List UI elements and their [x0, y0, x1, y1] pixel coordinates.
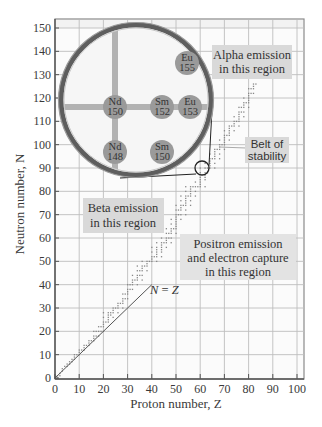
nuclide-nd-148: Nd 148 — [103, 140, 127, 164]
svg-text:Beta emission: Beta emission — [88, 201, 159, 215]
svg-text:80: 80 — [39, 184, 51, 198]
nuclide-eu-155: Eu 155 — [175, 51, 199, 75]
svg-text:148: 148 — [107, 151, 123, 162]
beta-region-label: Beta emission in this region — [83, 198, 164, 233]
svg-text:10: 10 — [39, 348, 51, 362]
svg-text:70: 70 — [39, 208, 51, 222]
svg-text:110: 110 — [33, 114, 51, 128]
svg-text:in this region: in this region — [205, 265, 272, 279]
svg-text:20: 20 — [97, 382, 109, 396]
svg-text:90: 90 — [267, 382, 279, 396]
svg-text:50: 50 — [170, 382, 182, 396]
svg-text:150: 150 — [107, 106, 123, 117]
svg-text:30: 30 — [39, 301, 51, 315]
svg-text:130: 130 — [33, 68, 51, 82]
x-axis-title: Proton number, Z — [130, 396, 222, 411]
svg-text:and electron capture: and electron capture — [187, 251, 289, 265]
nuclide-nd-150: Nd 150 — [103, 95, 127, 119]
svg-text:Positron emission: Positron emission — [193, 237, 283, 251]
svg-text:20: 20 — [39, 324, 51, 338]
svg-text:80: 80 — [243, 382, 255, 396]
svg-text:10: 10 — [73, 382, 85, 396]
svg-text:100: 100 — [288, 382, 306, 396]
svg-text:152: 152 — [154, 106, 170, 117]
svg-text:100: 100 — [33, 138, 51, 152]
y-axis-title: Neutron number, N — [12, 153, 27, 255]
nuclide-eu-153: Eu 153 — [178, 95, 202, 119]
svg-text:in this region: in this region — [219, 62, 286, 76]
svg-text:0: 0 — [52, 382, 58, 396]
svg-text:30: 30 — [122, 382, 134, 396]
svg-text:150: 150 — [154, 151, 170, 162]
svg-text:153: 153 — [182, 106, 198, 117]
svg-text:60: 60 — [194, 382, 206, 396]
svg-text:120: 120 — [33, 91, 51, 105]
svg-text:140: 140 — [33, 44, 51, 58]
stability-chart: 0102030405060708090100010203040506070809… — [0, 0, 322, 427]
svg-text:150: 150 — [33, 21, 51, 35]
svg-text:Belt of: Belt of — [251, 138, 284, 150]
svg-text:stability: stability — [248, 150, 287, 162]
svg-text:Alpha emission: Alpha emission — [213, 48, 292, 62]
alpha-region-label: Alpha emission in this region — [212, 45, 292, 79]
svg-text:70: 70 — [218, 382, 230, 396]
svg-text:50: 50 — [39, 254, 51, 268]
svg-text:90: 90 — [39, 161, 51, 175]
svg-text:0: 0 — [45, 371, 51, 385]
n-equals-z-label: N = Z — [149, 283, 180, 297]
svg-text:in this region: in this region — [90, 216, 157, 230]
svg-text:40: 40 — [146, 382, 158, 396]
positron-region-label: Positron emission and electron capture i… — [180, 234, 296, 280]
svg-text:40: 40 — [39, 278, 51, 292]
nuclide-sm-150: Sm 150 — [150, 140, 174, 164]
svg-text:155: 155 — [179, 62, 195, 73]
svg-text:60: 60 — [39, 231, 51, 245]
nuclide-sm-152: Sm 152 — [150, 95, 174, 119]
